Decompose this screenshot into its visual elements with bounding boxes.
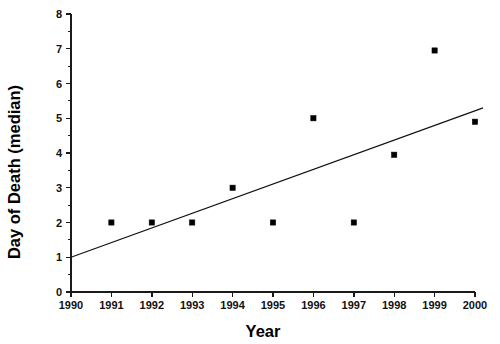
x-tick-label: 1993 <box>180 299 204 311</box>
x-tick-label: 1992 <box>140 299 164 311</box>
x-tick-label: 1995 <box>261 299 285 311</box>
y-tick-label: 0 <box>56 286 62 298</box>
data-point <box>190 220 195 225</box>
y-tick-label: 1 <box>56 251 62 263</box>
y-tick-label: 2 <box>56 217 62 229</box>
x-tick-label: 1991 <box>99 299 123 311</box>
y-axis-title: Day of Death (median) <box>5 85 23 259</box>
y-tick-label: 7 <box>56 43 62 55</box>
y-tick-label: 4 <box>56 147 63 159</box>
x-tick-label: 1994 <box>220 299 245 311</box>
data-points <box>109 48 478 225</box>
data-point <box>109 220 114 225</box>
data-point <box>472 119 477 124</box>
data-point <box>432 48 437 53</box>
y-tick-label: 5 <box>56 112 62 124</box>
y-tick-label: 3 <box>56 182 62 194</box>
chart-canvas: 012345678 199019911992199319941995199619… <box>0 0 500 344</box>
x-tick-label: 2000 <box>463 299 487 311</box>
trend-line <box>71 108 483 257</box>
scatter-chart: 012345678 199019911992199319941995199619… <box>0 0 500 344</box>
x-tick-label: 1999 <box>422 299 446 311</box>
regression-line <box>71 108 483 257</box>
data-point <box>351 220 356 225</box>
data-point <box>311 116 316 121</box>
x-axis-title: Year <box>246 322 281 340</box>
y-tick-label: 8 <box>56 8 62 20</box>
x-tick-label: 1998 <box>382 299 406 311</box>
x-tick-label: 1996 <box>301 299 325 311</box>
x-tick-label: 1990 <box>59 299 83 311</box>
y-axis: 012345678 <box>56 8 71 298</box>
data-point <box>270 220 275 225</box>
data-point <box>230 185 235 190</box>
data-point <box>149 220 154 225</box>
x-tick-label: 1997 <box>342 299 366 311</box>
y-tick-label: 6 <box>56 78 62 90</box>
data-point <box>392 152 397 157</box>
x-axis: 1990199119921993199419951996199719981999… <box>59 292 487 311</box>
